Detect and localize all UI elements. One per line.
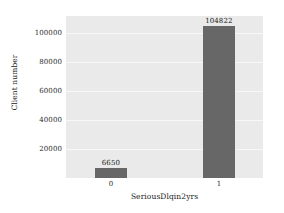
y-axis-title: Client number bbox=[10, 33, 19, 133]
bar-category-1[interactable] bbox=[203, 26, 235, 178]
y-axis-tick-labels: 20000 40000 60000 80000 100000 bbox=[18, 16, 62, 178]
bar-chart-figure: 20000 40000 60000 80000 100000 Client nu… bbox=[0, 0, 284, 213]
x-axis-tick-0: 0 bbox=[109, 180, 113, 188]
bar-category-0[interactable] bbox=[95, 168, 127, 178]
x-axis-tick-1: 1 bbox=[217, 180, 221, 188]
bar-value-label-0: 6650 bbox=[95, 159, 127, 167]
y-axis-tick-60000: 60000 bbox=[39, 87, 62, 95]
x-axis-title: SeriousDlqin2yrs bbox=[66, 192, 263, 201]
plot-area: 6650 104822 bbox=[66, 16, 263, 178]
bar-value-label-1: 104822 bbox=[203, 17, 235, 25]
y-axis-tick-80000: 80000 bbox=[39, 58, 62, 66]
y-axis-tick-100000: 100000 bbox=[35, 29, 62, 37]
y-axis-tick-40000: 40000 bbox=[39, 116, 62, 124]
x-axis-tick-labels: 0 1 bbox=[66, 180, 263, 192]
y-axis-tick-20000: 20000 bbox=[39, 145, 62, 153]
